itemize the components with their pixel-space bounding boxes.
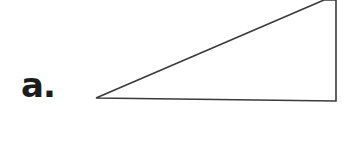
right-triangle [96, 0, 336, 101]
triangle-figure [0, 0, 362, 154]
